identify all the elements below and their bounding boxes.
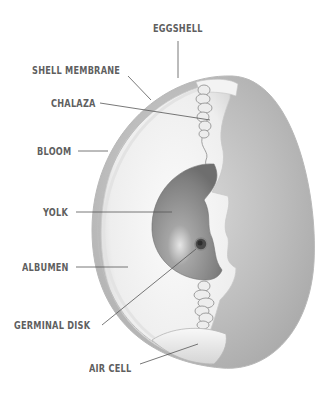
label-germinal-disk: GERMINAL DISK [14, 319, 90, 331]
label-air-cell: AIR CELL [89, 362, 131, 374]
label-eggshell: EGGSHELL [153, 22, 203, 34]
label-albumen: ALBUMEN [22, 261, 69, 273]
label-chalaza: CHALAZA [51, 97, 96, 109]
egg-anatomy-diagram [0, 0, 332, 398]
label-yolk: YOLK [43, 206, 68, 218]
label-bloom: BLOOM [37, 145, 71, 157]
label-shell-membrane: SHELL MEMBRANE [32, 64, 120, 76]
